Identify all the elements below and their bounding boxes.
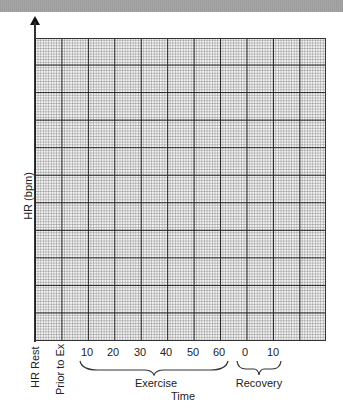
exercise-brace-icon <box>78 360 230 376</box>
x-label-hr-rest: HR Rest <box>29 346 41 388</box>
x-label-prior-to-ex: Prior to Ex <box>54 344 66 395</box>
x-tick: 0 <box>242 346 248 358</box>
x-tick: 10 <box>267 346 279 358</box>
header-band <box>0 0 343 12</box>
exercise-group-label: Exercise <box>135 377 177 389</box>
x-tick: 30 <box>134 346 146 358</box>
recovery-group-label: Recovery <box>236 377 282 389</box>
grid-frame <box>35 38 326 341</box>
x-tick: 40 <box>160 346 172 358</box>
x-axis-label: Time <box>171 390 195 402</box>
x-tick: 60 <box>213 346 225 358</box>
graph-grid <box>35 38 326 341</box>
x-tick: 10 <box>81 346 93 358</box>
y-axis-label: HR (bpm) <box>22 166 34 226</box>
x-tick: 50 <box>187 346 199 358</box>
recovery-brace-icon <box>236 360 282 376</box>
x-tick: 20 <box>107 346 119 358</box>
